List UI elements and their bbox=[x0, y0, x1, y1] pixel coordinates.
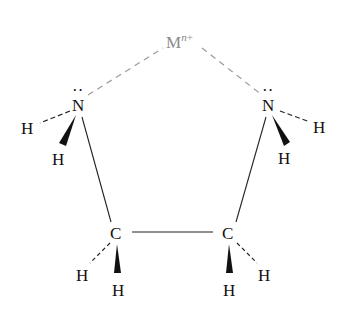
atom-h-c-left-wedge: H bbox=[112, 281, 124, 300]
atom-h-c-left-dash: H bbox=[76, 266, 88, 285]
metal-ion-label: Mn+ bbox=[166, 31, 193, 52]
atom-c-right: C bbox=[222, 224, 233, 243]
chemical-structure-diagram: Mn+ ·· N ·· N H H H H C C H H H H bbox=[0, 0, 343, 318]
bond-c-left-h-dash bbox=[90, 243, 110, 263]
atom-n-left: N bbox=[72, 96, 84, 115]
atom-h-n-right-wedge: H bbox=[278, 149, 290, 168]
bond-c-right-h-dash bbox=[237, 243, 257, 263]
coordinate-bond-right bbox=[202, 48, 262, 95]
bond-n-left-h-dash bbox=[40, 111, 70, 123]
wedge-c-left-h bbox=[114, 244, 121, 273]
wedge-n-right-h bbox=[272, 115, 290, 146]
wedge-n-left-h bbox=[59, 115, 76, 146]
atom-h-n-right-dash: H bbox=[313, 118, 325, 137]
bond-n-right-h-dash bbox=[280, 111, 310, 122]
coordinate-bond-left bbox=[88, 48, 163, 95]
atom-h-n-left-dash: H bbox=[21, 119, 33, 138]
bond-n-left-c-left bbox=[82, 117, 111, 222]
atom-h-c-right-wedge: H bbox=[223, 281, 235, 300]
atom-h-n-left-wedge: H bbox=[52, 150, 64, 169]
atom-c-left: C bbox=[110, 224, 121, 243]
wedge-c-right-h bbox=[226, 244, 233, 273]
atom-n-right: N bbox=[262, 96, 274, 115]
atom-h-c-right-dash: H bbox=[258, 266, 270, 285]
bond-n-right-c-right bbox=[236, 117, 266, 222]
